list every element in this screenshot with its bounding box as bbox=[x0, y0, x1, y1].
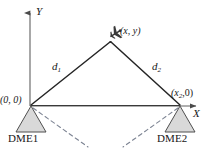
station-symbol-dme1 bbox=[16, 106, 46, 132]
y-axis-label: Y bbox=[36, 6, 42, 17]
dme-geometry-diagram: Y X (0, 0) (x, y) (x2,0) d1 d2 DME1 DME2 bbox=[0, 0, 212, 149]
apex-vertex-marker bbox=[109, 41, 111, 43]
station-label-dme1: DME1 bbox=[8, 133, 38, 144]
distance-label-d1: d1 bbox=[52, 61, 61, 74]
station-label-dme2: DME2 bbox=[157, 133, 187, 144]
d2-subscript: 2 bbox=[158, 66, 162, 74]
station-symbol-dme2 bbox=[165, 106, 195, 132]
dme2-coord-rest: ,0) bbox=[182, 87, 193, 98]
aircraft-coordinate-label: (x, y) bbox=[120, 26, 141, 36]
dme2-coordinate-label: (x2,0) bbox=[171, 88, 193, 100]
distance-label-d2: d2 bbox=[152, 61, 161, 74]
origin-coordinate-label: (0, 0) bbox=[0, 95, 22, 105]
distance-line-d1 bbox=[31, 42, 110, 105]
distance-line-d2 bbox=[111, 42, 180, 105]
x-axis-label: X bbox=[193, 108, 200, 119]
d1-subscript: 1 bbox=[58, 66, 62, 74]
diagram-canvas bbox=[0, 0, 212, 149]
